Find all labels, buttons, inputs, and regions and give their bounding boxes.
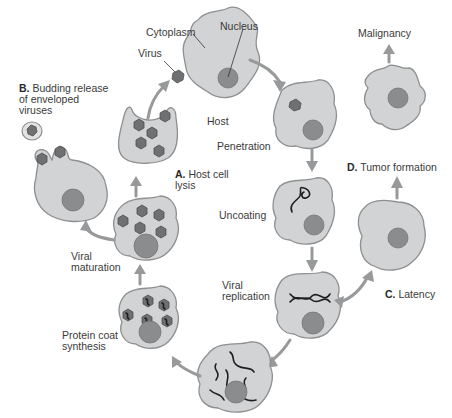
label-viral-replication: Viral replication [222, 280, 270, 302]
protein-coat-cell [119, 286, 178, 348]
enveloped-virus [22, 122, 42, 140]
label-viral-maturation: Viral maturation [71, 251, 121, 273]
label-malignancy: Malignancy [358, 28, 411, 39]
uncoating-cell [273, 178, 334, 244]
attaching-virus [172, 70, 184, 83]
label-host-cell-lysis-line2: lysis [175, 180, 229, 191]
label-penetration: Penetration [217, 141, 271, 152]
latent-cell [358, 200, 425, 270]
label-viral-replication-line2: replication [222, 291, 270, 302]
label-latency-letter: C. [385, 288, 396, 300]
label-latency-text: Latency [398, 288, 435, 300]
label-protein-coat-synthesis: Protein coat synthesis [62, 330, 118, 352]
genome-copies-cell [198, 342, 273, 412]
label-tumor-formation-letter: D. [347, 161, 358, 173]
maturation-cell [114, 196, 179, 260]
penetration-cell [274, 80, 337, 149]
label-budding-release: B. Budding release of enveloped viruses [19, 83, 108, 116]
label-viral-maturation-line2: maturation [71, 262, 121, 273]
label-protein-coat-line2: synthesis [62, 341, 118, 352]
budding-cell [35, 146, 108, 221]
replication-cell [275, 272, 340, 338]
label-latency: C. Latency [385, 289, 435, 300]
label-nucleus: Nucleus [220, 21, 258, 32]
tumor-cell [365, 65, 426, 130]
label-budding-release-line3: viruses [19, 105, 108, 116]
label-host-cell-lysis: A. Host cell lysis [175, 169, 229, 191]
label-virus: Virus [138, 48, 162, 59]
label-uncoating: Uncoating [219, 210, 266, 221]
virus-leader [164, 61, 176, 73]
label-tumor-formation-text: Tumor formation [360, 161, 437, 173]
label-tumor-formation: D. Tumor formation [347, 162, 437, 173]
label-host: Host [207, 116, 229, 127]
label-cytoplasm: Cytoplasm [146, 27, 196, 38]
